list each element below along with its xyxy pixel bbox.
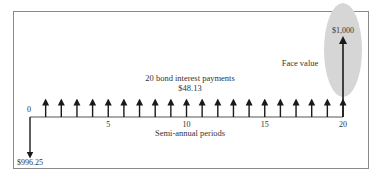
period-tick-label: 5 bbox=[106, 120, 110, 129]
face-value-amount: $1,000 bbox=[332, 26, 354, 35]
cash-flow-diagram: $1,000 Face value 20 bond interest payme… bbox=[0, 0, 383, 177]
period-tick-label: 20 bbox=[339, 120, 347, 129]
payments-label: 20 bond interest payments bbox=[145, 73, 234, 83]
price-amount: $996.25 bbox=[17, 158, 43, 167]
period-tick-label: 15 bbox=[261, 120, 269, 129]
payment-amount: $48.13 bbox=[178, 83, 201, 93]
face-value-label: Face value bbox=[282, 58, 319, 68]
period-zero-label: 0 bbox=[27, 105, 31, 114]
axis-label: Semi-annual periods bbox=[155, 128, 225, 138]
